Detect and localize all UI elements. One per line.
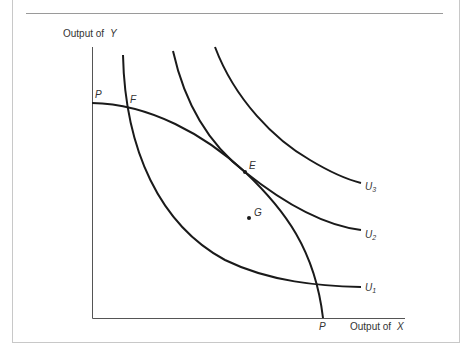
point-e-marker (243, 170, 247, 174)
production-possibility-diagram: Output of Y Output of X P P F E G U3 U2 … (0, 0, 474, 357)
indifference-curve-u1 (123, 55, 361, 287)
ppf-label-bottom: P (319, 321, 326, 332)
point-g-label: G (254, 207, 262, 218)
indifference-curve-u3 (215, 47, 361, 183)
x-axis-label: Output of X (350, 321, 404, 332)
point-f-label: F (130, 94, 137, 105)
y-axis-label: Output of Y (63, 28, 118, 39)
ppf-curve (92, 103, 323, 318)
indifference-curve-u2 (173, 51, 361, 230)
u2-label: U2 (365, 229, 376, 241)
u1-label: U1 (365, 282, 376, 294)
point-g-marker (247, 216, 251, 220)
ppf-label-top: P (95, 89, 102, 100)
point-e-label: E (249, 160, 256, 171)
u3-label: U3 (365, 181, 376, 193)
